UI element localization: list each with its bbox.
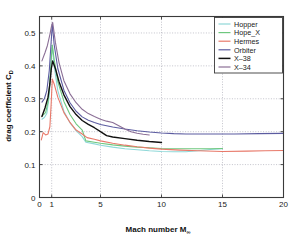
x-tick-label: 20 (279, 200, 288, 209)
x-tick-label: 1 (49, 200, 54, 209)
x-tick-label: 0 (37, 200, 42, 209)
y-tick-label: 0.5 (24, 29, 36, 38)
svg-text:drag coefficient CD: drag coefficient CD (4, 70, 14, 142)
legend-label-x-34: X–34 (234, 63, 251, 72)
y-tick-label: 0.3 (24, 95, 36, 104)
x-tick-label: 10 (157, 200, 166, 209)
svg-text:Mach number M∞: Mach number M∞ (126, 225, 191, 235)
drag-coefficient-chart: 015101520 00.10.20.30.40.5 Mach number M… (0, 0, 299, 242)
y-tick-label: 0 (31, 194, 36, 203)
x-axis-title: Mach number M∞ (126, 225, 191, 235)
chart-legend[interactable]: HopperHope_XHermesOrbiterX–38X–34 (215, 18, 283, 74)
figure-container: 015101520 00.10.20.30.40.5 Mach number M… (0, 0, 299, 242)
x-tick-label: 5 (98, 200, 103, 209)
x-tick-label: 15 (218, 200, 227, 209)
y-tick-label: 0.4 (24, 62, 36, 71)
y-axis-title: drag coefficient CD (4, 70, 14, 142)
y-tick-label: 0.2 (24, 128, 36, 137)
y-tick-label: 0.1 (24, 161, 36, 170)
